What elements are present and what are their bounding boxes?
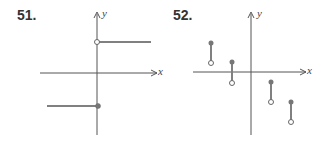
graph-52-open-circle-icon bbox=[289, 120, 294, 125]
graphs-canvas bbox=[0, 0, 329, 143]
graph-52-open-circle-icon bbox=[209, 61, 214, 66]
graph-52-open-circle-icon bbox=[230, 81, 235, 86]
graph-51 bbox=[40, 12, 157, 135]
graph-52-closed-dot-icon bbox=[230, 60, 235, 65]
graph-52-closed-dot-icon bbox=[209, 41, 214, 46]
graph-52-open-circle-icon bbox=[269, 100, 274, 105]
graph-52-closed-dot-icon bbox=[269, 80, 274, 85]
graph-52-closed-dot-icon bbox=[289, 100, 294, 105]
graph-52 bbox=[193, 12, 306, 135]
graph-51-open-circle-icon bbox=[95, 40, 100, 45]
graph-51-closed-dot-icon bbox=[96, 104, 101, 109]
